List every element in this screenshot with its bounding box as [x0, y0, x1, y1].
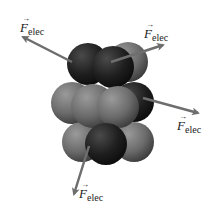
svg-text:elec: elec	[28, 26, 45, 37]
neutron	[97, 86, 139, 128]
svg-text:elec: elec	[152, 32, 169, 43]
svg-text:elec: elec	[87, 192, 104, 203]
svg-text:elec: elec	[185, 124, 202, 135]
arrow-top-left	[23, 37, 72, 62]
proton	[92, 46, 134, 88]
force-label-top-left: → F elec	[19, 14, 45, 37]
force-label-bottom: → F elec	[78, 180, 104, 203]
force-label-right: → F elec	[176, 112, 202, 135]
nucleus-force-diagram: → F elec → F elec → F elec → F elec	[0, 0, 218, 208]
proton	[85, 123, 127, 165]
force-label-top-right: → F elec	[143, 20, 169, 43]
